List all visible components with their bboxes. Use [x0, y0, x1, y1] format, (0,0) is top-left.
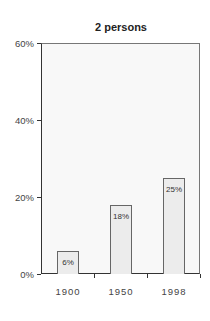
y-tick-label: 0%	[20, 269, 34, 280]
y-tick-20	[37, 197, 41, 198]
y-tick-60	[37, 43, 41, 44]
bar-value-label: 25%	[164, 185, 184, 194]
y-tick-label: 20%	[15, 192, 34, 203]
bar-1900: 6%	[57, 251, 79, 274]
y-tick-label: 60%	[15, 38, 34, 49]
x-tick	[200, 274, 201, 278]
y-tick-40	[37, 120, 41, 121]
x-tick	[147, 274, 148, 278]
bar-1998: 25%	[163, 178, 185, 274]
y-tick-0	[37, 274, 41, 275]
x-label-1998: 1998	[154, 286, 194, 297]
bar-1950: 18%	[110, 205, 132, 274]
bar-value-label: 18%	[111, 212, 131, 221]
chart-title: 2 persons	[41, 21, 201, 33]
x-label-1950: 1950	[101, 286, 141, 297]
y-tick-label: 40%	[15, 115, 34, 126]
x-label-1900: 1900	[48, 286, 88, 297]
bar-value-label: 6%	[58, 258, 78, 267]
x-tick	[94, 274, 95, 278]
